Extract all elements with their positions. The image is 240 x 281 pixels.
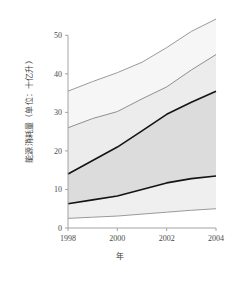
y-tick-label: 40 [54,70,62,79]
x-tick-label: 1998 [60,234,76,243]
x-tick-label: 2004 [208,234,224,243]
y-tick-label: 50 [54,31,62,40]
y-tick-label: 10 [54,185,62,194]
x-tick-label: 2000 [109,234,125,243]
x-tick-label: 2002 [159,234,175,243]
y-tick-label: 30 [54,108,62,117]
y-tick-label: 20 [54,147,62,156]
x-axis-label: 年 [0,250,240,261]
x-axis-ticks: 1998200020022004 [60,228,224,243]
y-tick-label: 0 [58,224,62,233]
y-axis-label: 能源消耗量（单位：十亿升） [23,30,34,190]
fan-chart-figure: 1998200020022004 01020304050 能源消耗量（单位：十亿… [0,0,240,281]
chart-plot-area: 1998200020022004 01020304050 [0,0,240,281]
confidence-bands [68,19,216,218]
y-axis-ticks: 01020304050 [54,31,68,233]
